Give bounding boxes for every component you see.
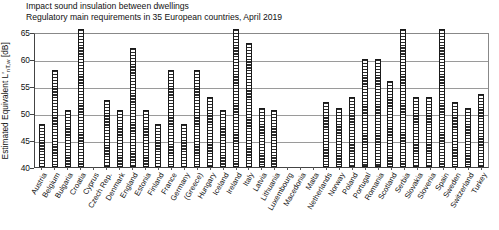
bar-slot (436, 34, 449, 167)
x-tick-mark (248, 167, 249, 170)
bar-latvia (259, 108, 265, 167)
bar-norway (336, 108, 342, 167)
bar-slot (75, 34, 88, 167)
x-tick-mark (274, 167, 275, 170)
y-tick-label-60: 60 (21, 55, 30, 65)
x-tick-mark (145, 167, 146, 170)
bar-bulgaria (65, 110, 71, 167)
x-tick-mark (93, 167, 94, 170)
x-label-slot: Norway (333, 170, 346, 228)
bar-sweden (452, 102, 458, 167)
bar-slot (268, 34, 281, 167)
bar-slot (294, 34, 307, 167)
x-tick-mark (67, 167, 68, 170)
x-tick-mark (171, 167, 172, 170)
bar-turkey (478, 94, 484, 167)
bar-slot (371, 34, 384, 167)
x-tick-mark (378, 167, 379, 170)
x-tick-mark (352, 167, 353, 170)
x-tick-mark (119, 167, 120, 170)
y-tick-label-45: 45 (21, 136, 30, 146)
bar-slot (255, 34, 268, 167)
bar-serbia (400, 29, 406, 167)
bar-slot (88, 34, 101, 167)
x-tick-mark (468, 167, 469, 170)
bar-austria (39, 124, 45, 167)
bar-slot (152, 34, 165, 167)
x-tick-mark (443, 167, 444, 170)
x-tick-mark (236, 167, 237, 170)
bar-slot (384, 34, 397, 167)
x-tick-mark (313, 167, 314, 170)
x-tick-mark (261, 167, 262, 170)
bar-slot (36, 34, 49, 167)
x-label-slot: Denmark (113, 170, 126, 228)
x-label-slot: Slovenia (423, 170, 436, 228)
x-tick-mark (41, 167, 42, 170)
chart-title-block: Impact sound insulation between dwelling… (26, 1, 496, 22)
bar-belgium (52, 70, 58, 167)
x-axis-labels: AustriaBelgiumBulgariaCroatiaCyprusCzech… (34, 170, 489, 228)
chart-title-line-1: Impact sound insulation between dwelling… (26, 1, 496, 12)
bar-slot (62, 34, 75, 167)
bar-netherlands (323, 102, 329, 167)
bar-finland (155, 124, 161, 167)
bar-slot (216, 34, 229, 167)
y-axis-ticks: 404550556065 (0, 0, 34, 230)
bar-slot (229, 34, 242, 167)
bar-slot (204, 34, 217, 167)
y-tick-label-50: 50 (21, 109, 30, 119)
bar-slot (49, 34, 62, 167)
x-tick-mark (339, 167, 340, 170)
bar-slot (423, 34, 436, 167)
bar-slot (474, 34, 487, 167)
bar-portugal (362, 59, 368, 167)
bar-slot (410, 34, 423, 167)
bar-scotland (387, 81, 393, 167)
y-tick-mark-40 (30, 168, 34, 169)
x-tick-mark (287, 167, 288, 170)
bar-slot (320, 34, 333, 167)
plot-area (34, 33, 489, 168)
chart-title-line-2: Regulatory main requirements in 35 Europ… (26, 12, 496, 23)
bar-germany (181, 124, 187, 167)
bar-switzerland (465, 108, 471, 167)
bar-hungary (207, 97, 213, 167)
x-tick-mark (404, 167, 405, 170)
x-tick-mark (80, 167, 81, 170)
x-label-slot: Estonia (139, 170, 152, 228)
bar-slot (242, 34, 255, 167)
bar-slot (358, 34, 371, 167)
bar-slot (449, 34, 462, 167)
x-label-slot: Iceland (216, 170, 229, 228)
bar-slovakia (413, 97, 419, 167)
x-label-slot: Ireland (229, 170, 242, 228)
bar-lithuania (271, 110, 277, 167)
x-label-slot: Austria (35, 170, 48, 228)
bar-series (35, 34, 488, 167)
bar-ireland (233, 29, 239, 167)
bar-iceland (220, 110, 226, 167)
bar-slot (281, 34, 294, 167)
bar-slot (345, 34, 358, 167)
x-label-slot: Switzerland (462, 170, 475, 228)
bar-slot (191, 34, 204, 167)
impact-sound-insulation-chart: Impact sound insulation between dwelling… (0, 0, 499, 230)
bar-slot (100, 34, 113, 167)
bar-slot (113, 34, 126, 167)
bar-estonia (143, 110, 149, 167)
y-tick-label-40: 40 (21, 163, 30, 173)
bar-romania (375, 59, 381, 167)
bar-slot (397, 34, 410, 167)
x-label-slot: Spain (436, 170, 449, 228)
x-label-slot: Italy (242, 170, 255, 228)
x-label-slot: Turkey (475, 170, 488, 228)
x-tick-mark (158, 167, 159, 170)
x-tick-mark (430, 167, 431, 170)
x-label-slot: Netherlands (320, 170, 333, 228)
x-tick-mark (184, 167, 185, 170)
x-label-slot: Hungary (203, 170, 216, 228)
bar-czech-rep (104, 100, 110, 168)
x-label-slot: Finland (151, 170, 164, 228)
x-tick-mark (326, 167, 327, 170)
